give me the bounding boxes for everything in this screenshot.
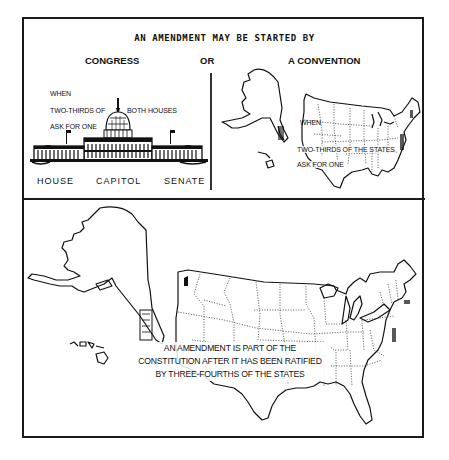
congress-heading: CONGRESS xyxy=(85,55,139,66)
or-separator: OR xyxy=(200,55,214,66)
capitol-building-icon xyxy=(30,96,210,166)
convention-when: WHEN xyxy=(300,119,321,126)
ratification-caption: AN AMENDMENT IS PART OF THE CONSTITUTION… xyxy=(130,342,330,381)
us-map-small-icon xyxy=(222,68,427,190)
convention-two-thirds: TWO-THIRDS OF THE STATES xyxy=(297,146,395,153)
convention-ask-for-one: ASK FOR ONE xyxy=(297,161,344,168)
ratification-line-2: CONSTITUTION AFTER IT HAS BEEN RATIFIED xyxy=(130,355,330,368)
ratification-line-1: AN AMENDMENT IS PART OF THE xyxy=(130,342,330,355)
convention-heading: A CONVENTION xyxy=(288,55,360,66)
senate-label: SENATE xyxy=(164,176,205,186)
diagram-title: AN AMENDMENT MAY BE STARTED BY xyxy=(0,33,449,43)
capitol-label: CAPITOL xyxy=(96,176,141,186)
house-label: HOUSE xyxy=(37,176,74,186)
panel-divider-vertical xyxy=(210,73,212,190)
us-map-large-icon xyxy=(24,200,424,438)
ratification-line-3: BY THREE-FOURTHS OF THE STATES xyxy=(130,368,330,381)
